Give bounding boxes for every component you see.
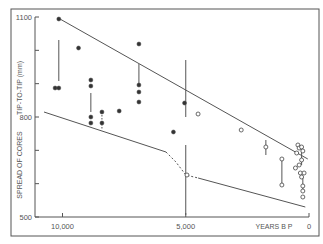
filled-point: [53, 86, 57, 90]
open-point: [185, 173, 189, 177]
filled-point: [57, 17, 61, 21]
open-point: [239, 128, 243, 132]
open-point: [302, 171, 306, 175]
x-axis-label: YEARS B P: [256, 223, 293, 230]
open-point: [300, 175, 304, 179]
chart-container: 110080050010,0005,0000 TIP-TO-TIP (mm) S…: [0, 0, 323, 244]
filled-point: [89, 115, 93, 119]
y-axis-label-lower: SPREAD OF CORES: [16, 131, 23, 199]
filled-point: [183, 101, 187, 105]
open-point: [301, 195, 305, 199]
open-point: [301, 184, 305, 188]
filled-point: [89, 78, 93, 82]
chart-frame: [11, 9, 319, 236]
open-point: [293, 166, 297, 170]
filled-point: [137, 90, 141, 94]
x-tick-label: 10,000: [51, 222, 74, 231]
open-point: [280, 157, 284, 161]
open-point: [280, 183, 284, 187]
open-point: [300, 145, 304, 149]
scatter-plot: 110080050010,0005,0000 TIP-TO-TIP (mm) S…: [0, 0, 323, 244]
open-point: [301, 149, 305, 153]
x-tick-label: 5,000: [176, 222, 195, 231]
filled-point: [89, 84, 93, 88]
open-point: [301, 189, 305, 193]
open-point: [196, 112, 200, 116]
filled-point: [100, 121, 104, 125]
x-tick-label: 0: [307, 222, 311, 231]
filled-point: [57, 86, 61, 90]
y-axis-label-upper: TIP-TO-TIP (mm): [16, 61, 24, 115]
filled-point: [137, 100, 141, 104]
filled-point: [137, 83, 141, 87]
filled-point: [100, 110, 104, 114]
y-tick-label: 500: [19, 213, 32, 222]
filled-point: [137, 42, 141, 46]
open-point: [297, 163, 301, 167]
open-point: [295, 151, 299, 155]
open-point: [300, 158, 304, 162]
filled-point: [117, 109, 121, 113]
filled-point: [77, 46, 81, 50]
filled-point: [89, 121, 93, 125]
y-tick-label: 1100: [16, 13, 32, 22]
open-point: [264, 145, 268, 149]
filled-point: [171, 130, 175, 134]
